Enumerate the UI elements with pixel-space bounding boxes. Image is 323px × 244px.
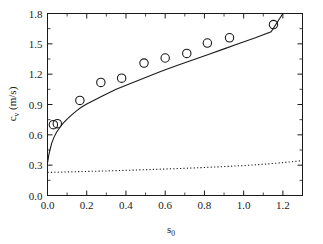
x-tick-label: 1.2 [276, 199, 290, 211]
x-tick-label: 0.8 [198, 199, 212, 211]
x-axis-title: s0 [167, 223, 175, 238]
chart-figure: 0.00.20.40.60.81.01.2 0.00.30.60.91.21.5… [0, 0, 323, 244]
x-tick-label: 0.0 [41, 199, 55, 211]
x-axis-title-subscript: 0 [171, 229, 175, 238]
data-point-marker [140, 59, 148, 67]
chart-canvas: 0.00.20.40.60.81.01.2 0.00.30.60.91.21.5… [0, 0, 323, 244]
y-tick-label: 1.5 [29, 38, 43, 50]
y-axis-title-unit: (m/s) [6, 86, 19, 112]
x-tick-label: 0.4 [119, 199, 133, 211]
y-axis-tick-labels: 0.00.30.60.91.21.51.8 [29, 8, 43, 202]
svg-text:s0: s0 [167, 223, 175, 238]
y-tick-label: 1.8 [29, 8, 43, 20]
data-point-marker [97, 78, 105, 86]
x-tick-label: 0.2 [80, 199, 94, 211]
y-axis-title: cv (m/s) [6, 86, 21, 121]
x-tick-label: 0.6 [158, 199, 172, 211]
y-tick-label: 0.0 [29, 190, 43, 202]
svg-text:cv (m/s): cv (m/s) [6, 86, 21, 121]
y-tick-label: 0.9 [29, 99, 43, 111]
y-tick-label: 0.6 [29, 129, 43, 141]
data-point-marker [203, 39, 211, 47]
x-tick-label: 1.0 [237, 199, 251, 211]
x-axis-tick-labels: 0.00.20.40.60.81.01.2 [41, 199, 290, 211]
data-point-markers [49, 20, 277, 129]
data-point-marker [117, 74, 125, 82]
data-point-marker [76, 96, 84, 104]
data-point-marker [183, 49, 191, 57]
data-point-marker [161, 54, 169, 62]
y-tick-label: 1.2 [29, 68, 43, 80]
model-curve [48, 14, 283, 164]
y-tick-label: 0.3 [29, 159, 43, 171]
reference-curve [48, 161, 303, 173]
data-point-marker [225, 34, 233, 42]
